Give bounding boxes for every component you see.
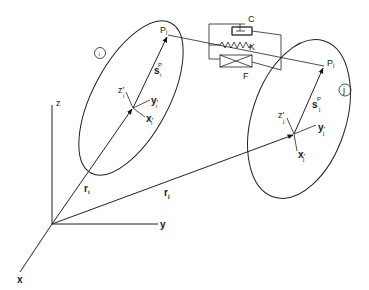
r-j-label: rj	[164, 187, 170, 199]
x-j-prime-label: x′	[298, 149, 306, 160]
body-i-badge: i	[95, 48, 106, 59]
s-j-sub: j	[318, 106, 320, 112]
z-i-prime-sub: i	[123, 93, 124, 99]
damper-label: C	[248, 14, 255, 24]
x-j-prime-sub: j	[302, 156, 304, 162]
y-i-prime-label: y′	[151, 95, 159, 106]
local-frame-j: z′ j y′ j x′ j	[278, 110, 326, 162]
y-i-prime-axis	[133, 100, 150, 108]
friction-label: F	[243, 71, 249, 81]
s-i-sub: i	[160, 72, 161, 78]
r-i-label: ri	[84, 183, 90, 195]
z-axis-label: z	[56, 98, 61, 108]
point-p-i-label: Pj	[160, 25, 167, 35]
z-j-prime-sub: j	[282, 118, 284, 124]
y-i-prime-sub: i	[156, 103, 157, 109]
y-axis-label: y	[160, 219, 166, 230]
spring-label: K	[249, 42, 255, 52]
point-p-j-label: Pj	[327, 58, 334, 68]
r-i-vector	[52, 109, 132, 224]
body-i-badge-text: i	[99, 51, 100, 57]
s-i-sup: P	[158, 62, 162, 68]
p-i-p-j-line	[168, 35, 324, 66]
global-frame: z y x	[17, 98, 166, 285]
body-j-badge: j	[339, 84, 351, 96]
y-j-prime-label: y′	[318, 122, 326, 133]
x-axis-label: x	[17, 274, 23, 285]
multibody-diagram: z y x ri rj s P i s P j z′ i y′ i x′ i z…	[0, 0, 369, 290]
s-j-sup: P	[317, 96, 321, 102]
body-j-outline	[229, 26, 369, 211]
body-i-outline	[58, 5, 205, 191]
z-i-prime-axis	[126, 92, 133, 108]
x-i-prime-axis	[133, 108, 145, 117]
x-i-prime-label: x′	[146, 113, 154, 124]
z-j-prime-axis	[287, 118, 294, 134]
r-j-vector	[52, 135, 293, 224]
s-i-vector	[133, 37, 167, 108]
x-i-prime-sub: i	[151, 120, 152, 126]
body-j-badge-text: j	[342, 85, 345, 95]
spring-symbol	[209, 42, 252, 48]
x-axis	[20, 224, 52, 272]
x-j-prime-axis	[294, 134, 297, 151]
y-j-prime-sub: j	[322, 130, 324, 136]
